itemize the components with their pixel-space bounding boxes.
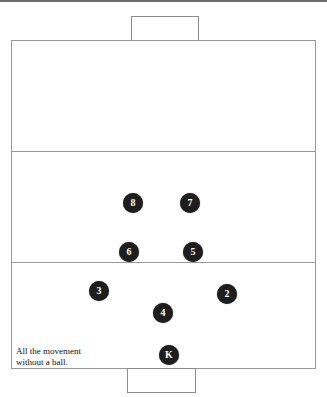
player-3: 3 [89, 281, 109, 301]
player-7: 7 [180, 193, 200, 213]
caption: All the movement without a ball. [16, 346, 81, 368]
player-5: 5 [183, 242, 203, 262]
caption-line-1: All the movement [16, 346, 81, 357]
zone-line-lower [11, 262, 316, 263]
top-border [0, 0, 327, 2]
player-2: 2 [217, 284, 237, 304]
zone-line-upper [11, 151, 316, 152]
bottom-goal [127, 368, 196, 393]
player-8: 8 [123, 193, 143, 213]
player-6: 6 [119, 242, 139, 262]
player-4: 4 [153, 303, 173, 323]
caption-line-2: without a ball. [16, 357, 81, 368]
top-goal [131, 16, 199, 41]
player-keeper: K [159, 345, 179, 365]
